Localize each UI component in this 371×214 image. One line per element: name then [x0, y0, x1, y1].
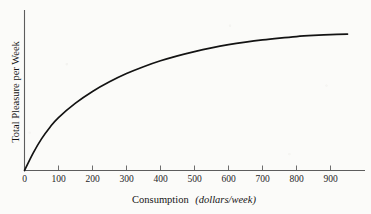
x-tick-label-900: 900	[323, 174, 338, 184]
y-axis-title: Total Pleasure per Week	[10, 40, 21, 142]
x-tick-label-700: 700	[255, 174, 270, 184]
x-tick-label-600: 600	[221, 174, 236, 184]
x-tick-label-800: 800	[289, 174, 304, 184]
x-axis-title: Consumption (dollars/week)	[132, 194, 256, 206]
x-tick-label-500: 500	[187, 174, 202, 184]
utility-curve-figure: 0 100 200 300 400 500 600 700 800 900 Co…	[0, 0, 371, 214]
x-axis-tick-marks	[25, 166, 331, 171]
x-tick-label-0: 0	[22, 174, 27, 184]
x-tick-label-100: 100	[51, 174, 66, 184]
x-axis-tick-labels: 0 100 200 300 400 500 600 700 800 900	[22, 174, 338, 184]
total-pleasure-curve	[25, 34, 348, 170]
chart-plot-area: 0 100 200 300 400 500 600 700 800 900 Co…	[0, 0, 371, 214]
x-axis-title-main: Consumption	[132, 194, 189, 205]
x-tick-label-400: 400	[153, 174, 168, 184]
x-axis-title-unit: (dollars/week)	[195, 194, 256, 206]
x-tick-label-200: 200	[85, 174, 100, 184]
x-tick-label-300: 300	[119, 174, 134, 184]
